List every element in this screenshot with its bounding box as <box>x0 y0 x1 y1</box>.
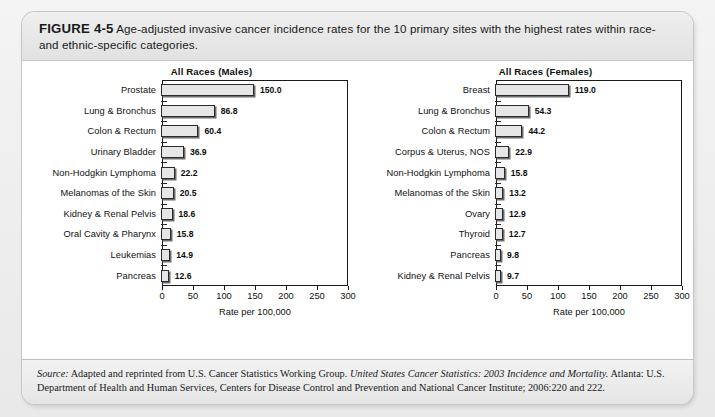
figure-card: FIGURE 4-5 Age-adjusted invasive cancer … <box>22 12 693 404</box>
bar <box>161 228 171 240</box>
bar-container: 150.0 <box>161 80 357 101</box>
category-label: Breast <box>356 85 495 95</box>
x-tick-label: 250 <box>643 291 659 301</box>
bar-row: Pancreas12.6 <box>22 265 357 286</box>
bar-value-label: 12.7 <box>509 229 526 239</box>
source-prefix: Source: <box>37 368 69 379</box>
page-backdrop: FIGURE 4-5 Age-adjusted invasive cancer … <box>0 0 715 417</box>
y-axis-tick <box>161 121 167 122</box>
bar-row: Colon & Rectum60.4 <box>22 121 357 142</box>
bar-container: 44.2 <box>495 121 691 142</box>
bar-row: Melanomas of the Skin20.5 <box>22 183 357 204</box>
bar <box>495 228 503 240</box>
bar-container: 15.8 <box>161 224 357 245</box>
x-axis-title-females: Rate per 100,000 <box>496 307 682 317</box>
x-tick-label: 250 <box>309 291 325 301</box>
category-label: Prostate <box>22 85 161 95</box>
category-label: Ovary <box>356 209 495 219</box>
bar-row: Lung & Bronchus86.8 <box>22 101 357 122</box>
x-axis-tick <box>527 286 528 290</box>
bar-value-label: 22.2 <box>181 168 198 178</box>
bar-value-label: 54.3 <box>535 106 552 116</box>
x-tick-label: 50 <box>188 291 198 301</box>
x-axis-tick <box>162 286 163 290</box>
y-axis-tick <box>495 224 501 225</box>
bar-value-label: 9.8 <box>507 250 519 260</box>
category-label: Colon & Rectum <box>22 126 161 136</box>
x-axis-tick <box>651 286 652 290</box>
category-label: Lung & Bronchus <box>356 106 495 116</box>
bar-container: 14.9 <box>161 245 357 266</box>
bar-row: Prostate150.0 <box>22 80 357 101</box>
x-axis-tick <box>193 286 194 290</box>
x-tick-label: 150 <box>581 291 597 301</box>
bar-row: Breast119.0 <box>356 80 691 101</box>
bar <box>495 270 501 282</box>
x-axis-tick <box>496 286 497 290</box>
x-axis-tick <box>348 286 349 290</box>
charts-body: All Races (Males) Prostate150.0Lung & Br… <box>22 61 693 340</box>
bar-row: Kidney & Renal Pelvis9.7 <box>356 265 691 286</box>
source-note: Source: Adapted and reprinted from U.S. … <box>37 367 679 395</box>
x-axis-tick <box>682 286 683 290</box>
y-axis-tick <box>161 142 167 143</box>
bar-row: Urinary Bladder36.9 <box>22 142 357 163</box>
category-label: Thyroid <box>356 229 495 239</box>
x-tick-label: 100 <box>550 291 566 301</box>
bar-row: Non-Hodgkin Lymphoma15.8 <box>356 162 691 183</box>
bar-value-label: 14.9 <box>176 250 193 260</box>
bar-container: 15.8 <box>495 162 691 183</box>
y-axis-tick <box>161 224 167 225</box>
bar-row: Lung & Bronchus54.3 <box>356 101 691 122</box>
figure-caption-text: Age-adjusted invasive cancer incidence r… <box>39 22 656 51</box>
x-tick-label: 200 <box>612 291 628 301</box>
y-axis-tick <box>495 204 501 205</box>
source-part1: Adapted and reprinted from U.S. Cancer S… <box>69 368 350 379</box>
bar <box>161 208 173 220</box>
category-label: Oral Cavity & Pharynx <box>22 229 161 239</box>
bar-row: Pancreas9.8 <box>356 245 691 266</box>
x-axis-tick <box>255 286 256 290</box>
bar-row: Thyroid12.7 <box>356 224 691 245</box>
bar-row: Colon & Rectum44.2 <box>356 121 691 142</box>
bar-container: 9.7 <box>495 265 691 286</box>
x-axis-tick <box>224 286 225 290</box>
bar <box>161 249 170 261</box>
bar-value-label: 20.5 <box>180 188 197 198</box>
bar <box>495 105 529 117</box>
y-axis-tick <box>495 245 501 246</box>
category-label: Colon & Rectum <box>356 126 495 136</box>
y-axis-tick <box>161 204 167 205</box>
category-label: Lung & Bronchus <box>22 106 161 116</box>
x-tick-labels-females: 050100150200250300 <box>496 291 682 303</box>
category-label: Melanomas of the Skin <box>356 188 495 198</box>
category-label: Pancreas <box>356 250 495 260</box>
x-axis-males <box>162 286 348 287</box>
bar-value-label: 9.7 <box>507 271 519 281</box>
bar-rows-males: Prostate150.0Lung & Bronchus86.8Colon & … <box>22 80 357 286</box>
category-label: Kidney & Renal Pelvis <box>356 271 495 281</box>
bar-value-label: 12.9 <box>509 209 526 219</box>
figure-caption: FIGURE 4-5 Age-adjusted invasive cancer … <box>39 21 677 52</box>
y-axis-tick <box>495 101 501 102</box>
bar-container: 12.6 <box>161 265 357 286</box>
category-label: Kidney & Renal Pelvis <box>22 209 161 219</box>
x-axis-tick <box>589 286 590 290</box>
category-label: Non-Hodgkin Lymphoma <box>22 168 161 178</box>
y-axis-tick <box>161 245 167 246</box>
x-axis-tick <box>620 286 621 290</box>
bar-container: 119.0 <box>495 80 691 101</box>
bar-container: 12.9 <box>495 204 691 225</box>
bar-row: Corpus & Uterus, NOS22.9 <box>356 142 691 163</box>
bar <box>495 125 522 137</box>
bar-container: 20.5 <box>161 183 357 204</box>
bar <box>495 249 501 261</box>
x-tick-label: 50 <box>522 291 532 301</box>
y-axis-tick <box>495 183 501 184</box>
bar-value-label: 119.0 <box>575 85 596 95</box>
bar-value-label: 18.6 <box>179 209 196 219</box>
bar <box>495 208 503 220</box>
bar-container: 54.3 <box>495 101 691 122</box>
bar <box>495 167 505 179</box>
y-axis-tick <box>161 162 167 163</box>
